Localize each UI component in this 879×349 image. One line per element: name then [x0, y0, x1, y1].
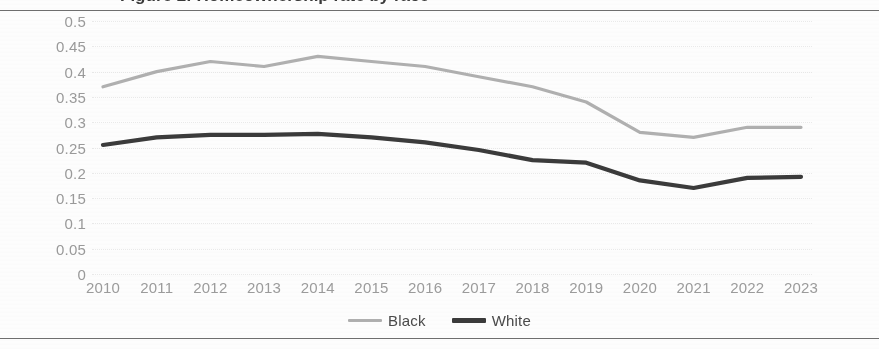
- y-axis-tick-label: 0.1: [65, 215, 86, 232]
- plot-area: [92, 21, 812, 274]
- x-axis-tick-label: 2020: [623, 279, 657, 296]
- x-axis-tick-label: 2018: [515, 279, 549, 296]
- chart-legend: BlackWhite: [0, 312, 879, 329]
- gridline: [92, 274, 812, 275]
- page-title-text: Figure 2: Homeownership rate by race: [120, 0, 429, 6]
- legend-label: Black: [388, 312, 426, 329]
- x-axis-tick-label: 2014: [301, 279, 335, 296]
- x-axis-tick-label: 2011: [140, 279, 173, 296]
- x-axis-tick-label: 2022: [730, 279, 764, 296]
- y-axis-tick-label: 0.45: [56, 38, 86, 55]
- x-axis-tick-label: 2016: [408, 279, 442, 296]
- series-line-white: [103, 134, 801, 188]
- y-axis-tick-label: 0.05: [56, 240, 86, 257]
- y-axis-tick-label: 0.35: [56, 88, 86, 105]
- y-axis-tick-label: 0.2: [65, 164, 86, 181]
- series-lines: [92, 21, 812, 274]
- x-axis-tick-label: 2021: [677, 279, 711, 296]
- legend-swatch-white: [452, 318, 486, 323]
- y-axis-tick-label: 0: [77, 266, 86, 283]
- line-chart: 0.50.450.40.350.30.250.20.150.10.050 201…: [0, 11, 879, 338]
- legend-item-white[interactable]: White: [452, 312, 531, 329]
- clipped-page-title: Figure 2: Homeownership rate by race: [0, 0, 879, 9]
- bottom-rule: [0, 338, 879, 339]
- y-axis-tick-label: 0.15: [56, 190, 86, 207]
- legend-item-black[interactable]: Black: [348, 312, 426, 329]
- y-axis-labels: 0.50.450.40.350.30.250.20.150.10.050: [14, 11, 86, 311]
- x-axis-tick-label: 2017: [462, 279, 496, 296]
- x-axis-tick-label: 2012: [193, 279, 227, 296]
- scanned-page: Figure 2: Homeownership rate by race 0.5…: [0, 0, 879, 349]
- legend-label: White: [492, 312, 531, 329]
- y-axis-tick-label: 0.4: [65, 63, 86, 80]
- y-axis-tick-label: 0.25: [56, 139, 86, 156]
- series-line-black: [103, 56, 801, 137]
- y-axis-tick-label: 0.5: [65, 13, 86, 30]
- x-axis-tick-label: 2019: [569, 279, 603, 296]
- x-axis-labels: 2010201120122013201420152016201720182019…: [92, 279, 812, 305]
- y-axis-tick-label: 0.3: [65, 114, 86, 131]
- x-axis-tick-label: 2013: [247, 279, 281, 296]
- x-axis-tick-label: 2023: [784, 279, 818, 296]
- x-axis-tick-label: 2015: [354, 279, 388, 296]
- x-axis-tick-label: 2010: [86, 279, 120, 296]
- legend-swatch-black: [348, 319, 382, 323]
